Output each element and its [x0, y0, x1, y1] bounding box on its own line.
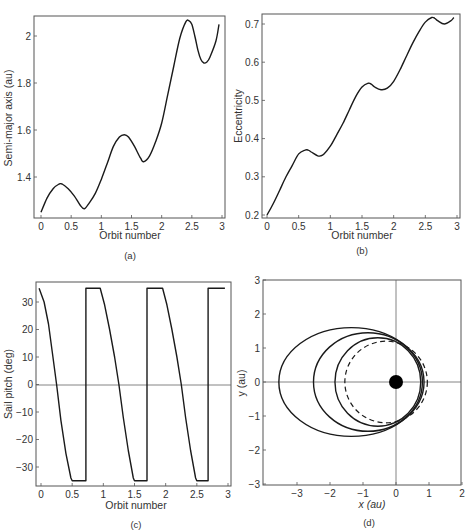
panel-c-curve	[39, 288, 225, 481]
y-tick-label: −3	[249, 479, 261, 490]
panel-c-ylabel: Sail pitch (deg)	[2, 349, 14, 419]
sun-marker	[389, 375, 403, 389]
panel-d-ticks: −3−2−1012−3−2−10123	[249, 275, 466, 500]
panel-a-xlabel: Orbit number	[99, 229, 161, 241]
x-tick-label: 1	[426, 488, 432, 499]
y-tick-label: 0.5	[245, 95, 259, 106]
panel-a-caption: (a)	[124, 250, 136, 261]
y-tick-label: −2	[249, 445, 261, 456]
x-tick-label: 2.5	[418, 221, 432, 232]
y-tick-label: 3	[254, 275, 260, 286]
panel-c-frame	[36, 282, 231, 486]
panel-b-eccentricity: 00.511.522.530.20.30.40.50.60.7 Orbit nu…	[232, 14, 460, 256]
panel-d-ylabel: y (au)	[235, 370, 247, 397]
panel-c-caption: (c)	[130, 519, 141, 530]
panel-b-caption: (b)	[356, 245, 368, 256]
panel-d-caption: (d)	[363, 517, 375, 528]
panel-b-ticks: 00.511.522.530.20.30.40.50.60.7	[245, 19, 460, 233]
x-tick-label: 3	[219, 221, 225, 232]
panel-b-xlabel: Orbit number	[331, 229, 393, 241]
y-tick-label: −20	[16, 434, 33, 445]
panel-a-ticks: 00.511.522.531.41.61.82	[17, 31, 225, 233]
y-tick-label: 0.2	[245, 210, 259, 221]
x-tick-label: 0.5	[292, 221, 306, 232]
panel-b-frame	[262, 14, 460, 218]
panel-c-xlabel: Orbit number	[105, 499, 167, 511]
x-tick-label: 0	[38, 221, 44, 232]
y-tick-label: −10	[16, 407, 33, 418]
y-tick-label: 0.7	[245, 19, 259, 30]
y-tick-label: −1	[249, 411, 261, 422]
panel-b-ylabel: Eccentricity	[232, 88, 244, 142]
panel-b-curve	[267, 17, 454, 215]
y-tick-label: 1.4	[17, 172, 31, 183]
y-tick-label: −30	[16, 462, 33, 473]
x-tick-label: 0	[264, 221, 270, 232]
y-tick-label: 10	[22, 352, 34, 363]
y-tick-label: 0.6	[245, 57, 259, 68]
x-tick-label: 0.5	[65, 489, 79, 500]
panel-a-curve	[41, 20, 219, 212]
y-tick-label: 1.6	[17, 125, 31, 136]
x-tick-label: 3	[225, 489, 231, 500]
y-tick-label: 0.4	[245, 133, 259, 144]
x-tick-label: 3	[454, 221, 460, 232]
figure-four-panels: 00.511.522.531.41.61.82 Orbit number Sem…	[0, 0, 471, 531]
panel-a-ylabel: Semi-major axis (au)	[2, 70, 14, 167]
x-tick-label: −3	[291, 488, 303, 499]
x-tick-label: 0	[393, 488, 399, 499]
y-tick-label: 0	[27, 379, 33, 390]
y-tick-label: 20	[22, 324, 34, 335]
y-tick-label: 30	[22, 297, 34, 308]
y-tick-label: 0.3	[245, 171, 259, 182]
panel-d-frame	[263, 280, 461, 485]
x-tick-label: 2.5	[190, 489, 204, 500]
x-tick-label: −2	[324, 488, 336, 499]
x-tick-label: 2	[459, 488, 465, 499]
panel-a-semimajor-axis: 00.511.522.531.41.61.82 Orbit number Sem…	[2, 16, 225, 261]
y-tick-label: 2	[254, 309, 260, 320]
x-tick-label: 2.5	[185, 221, 199, 232]
y-tick-label: 2	[25, 31, 31, 42]
y-tick-label: 1.8	[17, 78, 31, 89]
y-tick-label: 0	[254, 377, 260, 388]
y-tick-label: 1	[254, 343, 260, 354]
panel-d-xlabel: x (au)	[358, 498, 386, 510]
x-tick-label: 0.5	[64, 221, 78, 232]
x-tick-label: 0	[38, 489, 44, 500]
panel-d-orbit-trajectory: −3−2−1012−3−2−10123 x (au) y (au) (d)	[235, 275, 465, 529]
panel-c-sail-pitch: 00.511.522.53−30−20−100102030 Orbit numb…	[2, 282, 231, 530]
